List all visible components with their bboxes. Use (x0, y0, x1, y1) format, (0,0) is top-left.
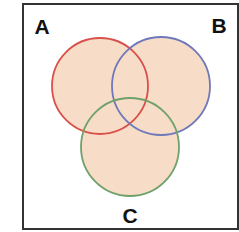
set-label-c: C (122, 204, 137, 227)
set-label-b: B (211, 14, 226, 37)
set-label-a: A (34, 15, 49, 38)
venn-diagram: A B C (0, 0, 239, 232)
